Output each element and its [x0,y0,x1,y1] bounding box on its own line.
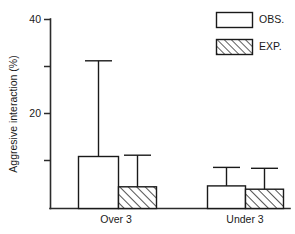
legend-entry-exp: EXP. [217,40,282,55]
chart-figure: 40 20 Aggresive interaction (%) Over 3 U… [0,0,295,234]
x-category-label-over-3: Over 3 [100,213,132,225]
legend-label-obs: OBS. [259,13,284,25]
bar-obs-over-3 [79,157,119,209]
y-tick-label-20: 20 [29,107,41,119]
x-category-label-under-3: Under 3 [226,213,264,225]
legend-entry-obs: OBS. [217,13,285,28]
legend-swatch-obs [217,13,253,28]
bar-exp-under-3 [246,189,284,208]
bar-obs-under-3 [208,186,246,209]
legend-label-exp: EXP. [259,40,282,52]
bar-exp-over-3 [119,187,157,209]
legend-swatch-exp [217,40,253,55]
y-axis-title: Aggresive interaction (%) [7,55,19,172]
y-tick-label-40: 40 [29,13,41,25]
aggressive-interaction-bar-chart: 40 20 Aggresive interaction (%) Over 3 U… [0,0,295,234]
